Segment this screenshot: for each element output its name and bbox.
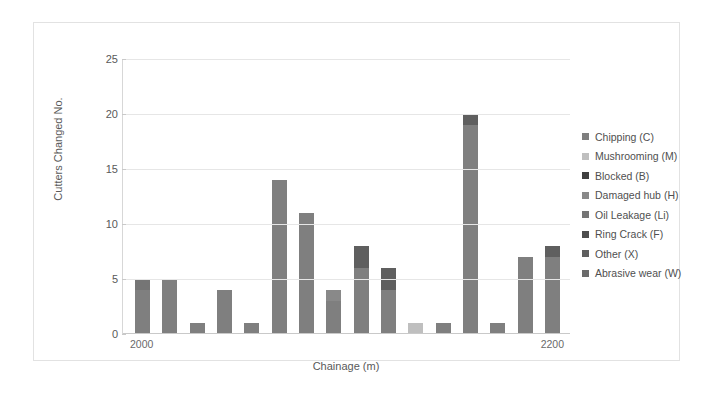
legend-label: Oil Leakage (Li) xyxy=(595,210,669,221)
legend-label: Mushrooming (M) xyxy=(595,151,677,162)
legend-item[interactable]: Abrasive wear (W) xyxy=(582,264,712,284)
y-tick-mark xyxy=(122,224,126,225)
gridline xyxy=(123,224,570,225)
legend-item[interactable]: Chipping (C) xyxy=(582,127,712,147)
y-tick-label: 0 xyxy=(112,329,118,340)
bar-segment[interactable] xyxy=(545,257,560,334)
legend-swatch-icon xyxy=(582,153,589,160)
gridline xyxy=(123,279,570,280)
bar-slot xyxy=(484,59,511,334)
bar-segment[interactable] xyxy=(326,290,341,301)
y-tick-label: 15 xyxy=(106,164,118,175)
bar-segment[interactable] xyxy=(354,268,369,334)
bar-segment[interactable] xyxy=(299,213,314,334)
bar-slot xyxy=(129,59,156,334)
bar-segment[interactable] xyxy=(463,125,478,334)
legend-item[interactable]: Other (X) xyxy=(582,244,712,264)
bar-slot xyxy=(402,59,429,334)
y-tick-mark xyxy=(122,169,126,170)
y-tick-mark xyxy=(122,59,126,60)
gridline xyxy=(123,114,570,115)
bar-slot xyxy=(184,59,211,334)
stacked-bar[interactable] xyxy=(135,279,150,334)
legend-item[interactable]: Ring Crack (F) xyxy=(582,225,712,245)
gridline xyxy=(123,59,570,60)
y-tick-mark xyxy=(122,279,126,280)
bar-segment[interactable] xyxy=(545,246,560,257)
stacked-bar[interactable] xyxy=(272,180,287,334)
chart-frame: Cutters Changed No. 0510152025 20002200 … xyxy=(33,22,680,361)
chart-legend: Chipping (C)Mushrooming (M)Blocked (B)Da… xyxy=(582,127,712,283)
legend-label: Chipping (C) xyxy=(595,132,654,143)
bar-slot xyxy=(539,59,566,334)
legend-item[interactable]: Damaged hub (H) xyxy=(582,186,712,206)
bar-slot xyxy=(457,59,484,334)
bar-series-group xyxy=(123,59,570,334)
bar-slot xyxy=(293,59,320,334)
x-axis-title: Chainage (m) xyxy=(122,360,570,372)
stacked-bar[interactable] xyxy=(354,246,369,334)
y-tick-label: 10 xyxy=(106,219,118,230)
bar-segment[interactable] xyxy=(518,257,533,334)
legend-swatch-icon xyxy=(582,231,589,238)
x-tick-label: 2000 xyxy=(130,338,153,350)
x-tick-label: 2200 xyxy=(541,338,564,350)
legend-label: Blocked (B) xyxy=(595,171,649,182)
legend-label: Abrasive wear (W) xyxy=(595,268,681,279)
legend-swatch-icon xyxy=(582,211,589,218)
legend-label: Ring Crack (F) xyxy=(595,229,663,240)
bar-segment[interactable] xyxy=(217,290,232,334)
y-tick-mark xyxy=(122,114,126,115)
bar-segment[interactable] xyxy=(354,246,369,268)
bar-slot xyxy=(348,59,375,334)
bar-slot xyxy=(320,59,347,334)
stacked-bar[interactable] xyxy=(299,213,314,334)
y-axis-title: Cutters Changed No. xyxy=(52,59,64,239)
bar-slot xyxy=(211,59,238,334)
stacked-bar[interactable] xyxy=(162,279,177,334)
y-tick-label: 5 xyxy=(112,274,118,285)
stacked-bar[interactable] xyxy=(381,268,396,334)
legend-swatch-icon xyxy=(582,270,589,277)
y-axis-tick-labels: 0510152025 xyxy=(86,59,118,334)
bar-segment[interactable] xyxy=(463,114,478,125)
chart-figure: Cutters Changed No. 0510152025 20002200 … xyxy=(0,0,712,395)
legend-swatch-icon xyxy=(582,250,589,257)
legend-label: Other (X) xyxy=(595,249,638,260)
stacked-bar[interactable] xyxy=(518,257,533,334)
bar-segment[interactable] xyxy=(381,290,396,334)
stacked-bar[interactable] xyxy=(217,290,232,334)
x-axis-line xyxy=(123,333,570,334)
legend-label: Damaged hub (H) xyxy=(595,190,678,201)
bar-slot xyxy=(375,59,402,334)
legend-item[interactable]: Blocked (B) xyxy=(582,166,712,186)
bar-segment[interactable] xyxy=(162,279,177,334)
legend-item[interactable]: Mushrooming (M) xyxy=(582,147,712,167)
plot-area xyxy=(122,59,570,334)
bar-slot xyxy=(266,59,293,334)
stacked-bar[interactable] xyxy=(545,246,560,334)
stacked-bar[interactable] xyxy=(326,290,341,334)
y-tick-label: 25 xyxy=(106,54,118,65)
bar-segment[interactable] xyxy=(272,180,287,334)
x-axis-tick-labels: 20002200 xyxy=(122,338,570,354)
legend-swatch-icon xyxy=(582,192,589,199)
bar-segment[interactable] xyxy=(326,301,341,334)
legend-swatch-icon xyxy=(582,133,589,140)
bar-segment[interactable] xyxy=(135,290,150,334)
bar-slot xyxy=(156,59,183,334)
legend-swatch-icon xyxy=(582,172,589,179)
legend-item[interactable]: Oil Leakage (Li) xyxy=(582,205,712,225)
bar-segment[interactable] xyxy=(135,279,150,290)
y-tick-mark xyxy=(122,334,126,335)
bar-slot xyxy=(429,59,456,334)
gridline xyxy=(123,169,570,170)
bar-slot xyxy=(511,59,538,334)
bar-slot xyxy=(238,59,265,334)
y-tick-label: 20 xyxy=(106,109,118,120)
